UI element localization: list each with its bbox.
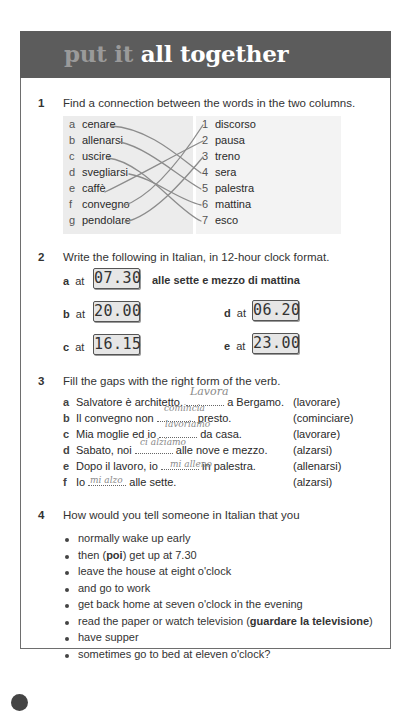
exercise-2-instruction: Write the following in Italian, in 12-ho…: [63, 251, 329, 263]
exercise-1-number: 1: [38, 97, 44, 109]
verb-hint-d: (alzarsi): [293, 444, 332, 456]
left-item-c: cuscire: [69, 150, 111, 162]
digital-clock-d: 06.20: [252, 300, 299, 321]
bullet-item: read the paper or watch television (guar…: [63, 615, 373, 632]
bullet-item: leave the house at eight o'clock: [63, 565, 373, 582]
right-item-5: 5palestra: [202, 182, 254, 194]
bullet-list: normally wake up early then (poi) get up…: [63, 532, 373, 664]
page-title: put it all together: [64, 40, 288, 67]
answer-a: alle sette e mezzo di mattina: [152, 274, 300, 286]
handwritten-answer-b: comincia: [164, 403, 205, 413]
handwritten-answer-a: Lavora: [190, 385, 229, 398]
handwritten-answer-c: lavoriamo: [165, 419, 210, 429]
digital-clock-a: 07.30: [93, 268, 140, 289]
handwritten-answer-e: mi alleno: [170, 459, 212, 469]
left-item-f: fconvegno: [69, 198, 130, 210]
verb-hint-a: (lavorare): [293, 396, 340, 408]
right-column: 1discorso 2pausa 3treno 4sera 5palestra …: [196, 116, 341, 234]
matching-table: acenare ballenarsi cuscire dsvegliarsi e…: [63, 116, 341, 234]
page-marker-icon: [11, 694, 28, 711]
bullet-item: have supper: [63, 631, 373, 648]
exercise-3-instruction: Fill the gaps with the right form of the…: [63, 375, 280, 387]
verb-hint-e: (allenarsi): [293, 460, 341, 472]
bullet-item: sometimes go to bed at eleven o'clock?: [63, 648, 373, 665]
right-item-7: 7esco: [202, 214, 238, 226]
exercise-4-number: 4: [38, 509, 44, 521]
handwritten-answer-d: ci alziamo: [140, 437, 186, 447]
handwritten-answer-f: mi alzo: [90, 475, 123, 485]
digital-clock-c: 16.15: [93, 334, 140, 355]
bullet-item: and go to work: [63, 582, 373, 599]
exercise-4-instruction: How would you tell someone in Italian th…: [63, 509, 300, 521]
right-item-1: 1discorso: [202, 118, 256, 130]
digital-clock-b: 20.00: [93, 301, 140, 322]
digital-clock-e: 23.00: [252, 333, 299, 354]
right-item-4: 4sera: [202, 166, 236, 178]
verb-hint-c: (lavorare): [293, 428, 340, 440]
clock-item-c: c at: [63, 341, 84, 353]
clock-item-d: d at: [224, 307, 246, 319]
clock-item-e: e at: [224, 340, 245, 352]
section-header: put it all together: [20, 31, 391, 78]
exercise-1-instruction: Find a connection between the words in t…: [63, 97, 355, 109]
exercise-2-number: 2: [38, 251, 44, 263]
left-item-a: acenare: [69, 118, 116, 130]
left-item-d: dsvegliarsi: [69, 166, 128, 178]
verb-hint-b: (cominciare): [293, 412, 354, 424]
right-item-2: 2pausa: [202, 134, 245, 146]
bullet-item: get back home at seven o'clock in the ev…: [63, 598, 373, 615]
left-column: acenare ballenarsi cuscire dsvegliarsi e…: [63, 116, 193, 234]
verb-hint-f: (alzarsi): [293, 476, 332, 488]
left-item-g: gpendolare: [69, 214, 131, 226]
clock-item-a: a at: [63, 275, 84, 287]
exercise-3-number: 3: [38, 375, 44, 387]
right-item-6: 6mattina: [202, 198, 251, 210]
clock-item-b: b at: [63, 308, 85, 320]
fill-item-e: eDopo il lavoro, io in palestra.: [63, 460, 256, 472]
bullet-item: then (poi) get up at 7.30: [63, 549, 373, 566]
bullet-item: normally wake up early: [63, 532, 373, 549]
left-item-b: ballenarsi: [69, 134, 123, 146]
right-item-3: 3treno: [202, 150, 240, 162]
left-item-e: ecaffè: [69, 182, 106, 194]
